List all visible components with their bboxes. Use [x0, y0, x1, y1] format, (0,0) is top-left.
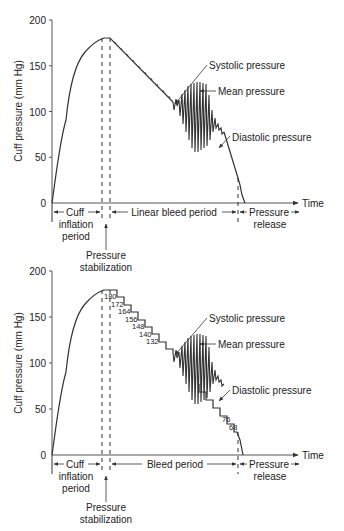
y-axis-label: Cuff pressure (mm Hg)	[13, 312, 24, 414]
stabilization-label: Pressure	[86, 250, 126, 261]
x-axis-label: Time	[302, 450, 324, 461]
release-sub-label: release	[254, 471, 287, 482]
stepped-pressure-curve	[52, 290, 173, 455]
diastolic-arrow	[219, 390, 230, 401]
systolic-label: Systolic pressure	[209, 313, 286, 324]
stabilization-label: Pressure	[86, 502, 126, 513]
y-tick-150: 150	[29, 61, 46, 72]
y-tick-50: 50	[35, 404, 47, 415]
y-tick-100: 100	[29, 358, 46, 369]
y-tick-0: 0	[40, 198, 46, 209]
bleed-label: Bleed period	[147, 459, 203, 470]
period-label: period	[62, 483, 90, 494]
diastolic-label: Diastolic pressure	[232, 385, 312, 396]
y-tick-200: 200	[29, 266, 46, 277]
period-label: period	[62, 231, 90, 242]
inflation-label: inflation	[59, 219, 93, 230]
step-label-68: 68	[229, 423, 237, 432]
y-tick-150: 150	[29, 312, 46, 323]
x-axis-label: Time	[302, 198, 324, 209]
pressure-curve	[52, 38, 173, 203]
cuff-label: Cuff	[66, 459, 84, 470]
bottom-chart: 200 150 100 50 0 Cuff pressure (mm Hg) T…	[13, 266, 324, 525]
bleed-label: Linear bleed period	[131, 207, 217, 218]
top-chart: 200 150 100 50 0 Cuff pressure (mm Hg) T…	[13, 15, 324, 273]
release-label: Pressure	[249, 207, 289, 218]
y-tick-100: 100	[29, 107, 46, 118]
systolic-label: Systolic pressure	[209, 60, 286, 71]
cuff-label: Cuff	[66, 207, 84, 218]
stabilization-sub-label: stabilization	[80, 262, 132, 273]
blood-pressure-diagram: 200 150 100 50 0 Cuff pressure (mm Hg) T…	[0, 0, 344, 531]
y-tick-200: 200	[29, 15, 46, 26]
y-tick-0: 0	[40, 450, 46, 461]
step-label-132: 132	[146, 337, 159, 346]
mean-label: Mean pressure	[218, 86, 285, 97]
y-tick-50: 50	[35, 152, 47, 163]
release-label: Pressure	[249, 459, 289, 470]
oscillation-wave	[173, 82, 224, 152]
stabilization-sub-label: stabilization	[80, 514, 132, 525]
mean-label: Mean pressure	[218, 339, 285, 350]
y-axis-label: Cuff pressure (mm Hg)	[13, 60, 24, 162]
heartbeat-ticks	[115, 42, 170, 98]
release-sub-label: release	[254, 219, 287, 230]
oscillation-wave	[173, 334, 224, 404]
diastolic-label: Diastolic pressure	[232, 132, 312, 143]
inflation-label: inflation	[59, 471, 93, 482]
